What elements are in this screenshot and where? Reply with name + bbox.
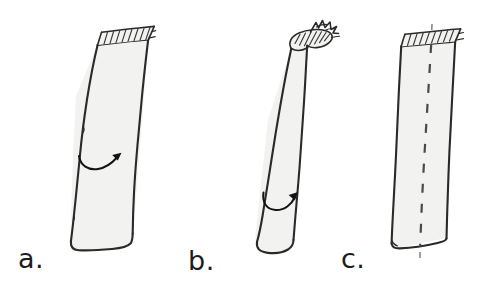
panel-b-label: b. (188, 245, 215, 276)
panel-b: b. (188, 21, 340, 277)
hand-drawn-diagram: a. (0, 0, 479, 294)
panel-c-column-body (392, 42, 456, 250)
panel-c: c. (341, 24, 464, 274)
panel-a: a. (18, 26, 156, 274)
figure-root: a. (0, 0, 479, 294)
panel-a-label: a. (18, 243, 44, 274)
panel-c-label: c. (341, 243, 365, 274)
panel-b-cylinder-body (255, 45, 307, 253)
panel-a-column-body (70, 39, 148, 251)
panel-b-hatched-top-face (290, 21, 340, 51)
